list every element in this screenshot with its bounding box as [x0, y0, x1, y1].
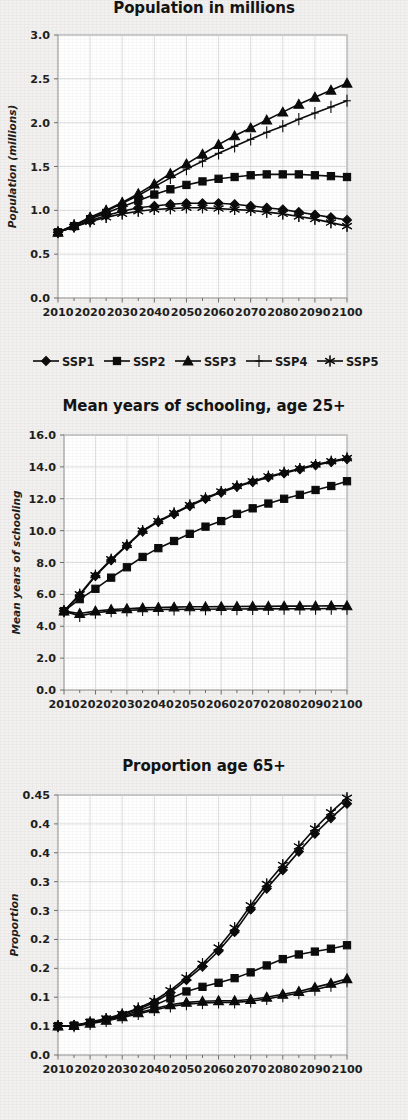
series-marker-square	[170, 537, 177, 544]
y-axis-title: Proportion	[8, 893, 20, 956]
x-axis-tick-label: 2040	[139, 306, 170, 319]
y-axis-tick-label: 1.5	[30, 160, 50, 173]
y-axis-tick-label: 4.0	[36, 620, 56, 633]
series-marker-square	[279, 955, 286, 962]
legend-label-SSP3: SSP3	[204, 354, 236, 368]
x-axis-tick-label: 2090	[300, 698, 331, 711]
chart-panel-population: Population in millions 0.00.51.01.52.02.…	[0, 0, 408, 398]
series-marker-square	[123, 563, 130, 570]
x-axis-tick-label: 2020	[75, 1063, 106, 1076]
y-axis-tick-label: 0.4	[30, 817, 50, 830]
series-marker-square	[108, 574, 115, 581]
x-axis-tick-label: 2050	[171, 306, 202, 319]
chart-panel-proportion: Proportion age 65+ 0.00.10.10.20.20.30.3…	[0, 758, 408, 1120]
x-axis-tick-label: 2070	[235, 306, 266, 319]
series-marker-square	[215, 979, 222, 986]
series-marker-square	[265, 499, 272, 506]
y-axis-tick-label: 14.0	[28, 460, 56, 473]
series-marker-square	[183, 987, 190, 994]
series-marker-square	[281, 495, 288, 502]
series-marker-square	[263, 170, 270, 177]
y-axis-title: Population (millions)	[6, 104, 18, 227]
y-axis-tick-label: 0.3	[30, 904, 50, 917]
series-marker-square	[233, 510, 240, 517]
y-axis-tick-label: 0.0	[30, 292, 50, 305]
y-axis-tick-label: 0.45	[22, 789, 50, 802]
series-marker-square	[167, 185, 174, 192]
x-axis-tick-label: 2080	[269, 698, 300, 711]
x-axis-tick-label: 2030	[111, 698, 142, 711]
y-axis-tick-label: 0.3	[30, 875, 50, 888]
series-marker-square	[311, 947, 318, 954]
y-axis-tick-label: 6.0	[36, 588, 56, 601]
x-axis-tick-label: 2030	[107, 1063, 138, 1076]
y-axis-tick-label: 8.0	[36, 556, 56, 569]
plot-area-schooling: 0.02.04.06.08.010.012.014.016.0201020202…	[0, 415, 408, 749]
series-marker-square	[247, 171, 254, 178]
series-marker-square	[199, 983, 206, 990]
plot-area-population: 0.00.51.01.52.02.53.02010202020302040205…	[0, 17, 408, 347]
series-marker-diamond	[42, 356, 51, 365]
y-axis-tick-label: 2.0	[30, 116, 50, 129]
chart-title-proportion: Proportion age 65+	[0, 758, 408, 775]
x-axis-tick-label: 2050	[174, 698, 205, 711]
y-axis-tick-label: 12.0	[28, 492, 56, 505]
series-marker-square	[186, 530, 193, 537]
series-marker-square	[139, 553, 146, 560]
y-axis-tick-label: 2.5	[30, 72, 50, 85]
legend-label-SSP2: SSP2	[133, 354, 165, 368]
y-axis-tick-label: 3.0	[30, 29, 50, 42]
legend-marker-SSP4	[255, 354, 263, 366]
y-axis-tick-label: 0.0	[30, 1049, 50, 1062]
series-marker-square	[311, 171, 318, 178]
x-axis-tick-label: 2010	[42, 1063, 73, 1076]
series-marker-square	[231, 173, 238, 180]
x-axis-tick-label: 2070	[235, 1063, 266, 1076]
y-axis-title: Mean years of schooling	[10, 490, 22, 634]
series-marker-square	[279, 170, 286, 177]
x-axis-tick-label: 2100	[331, 1063, 362, 1076]
legend-marker-SSP1	[42, 356, 51, 365]
schooling-chart-svg: 0.02.04.06.08.010.012.014.016.0201020202…	[0, 415, 408, 749]
y-axis-tick-label: 0.2	[30, 962, 50, 975]
series-marker-square	[113, 357, 120, 364]
legend-ssp-scenarios: SSP1SSP2SSP3SSP4SSP5	[0, 347, 408, 377]
x-axis-tick-label: 2010	[48, 698, 79, 711]
x-axis-tick-label: 2060	[206, 698, 237, 711]
series-marker-square	[247, 968, 254, 975]
y-axis-tick-label: 0.0	[36, 684, 56, 697]
x-axis-tick-label: 2040	[139, 1063, 170, 1076]
x-axis-tick-label: 2080	[267, 1063, 298, 1076]
x-axis-tick-label: 2040	[143, 698, 174, 711]
chart-panel-schooling: Mean years of schooling, age 25+ 0.02.04…	[0, 398, 408, 758]
legend-label-SSP4: SSP4	[275, 354, 307, 368]
legend-label-SSP5: SSP5	[346, 354, 378, 368]
proportion-chart-svg: 0.00.10.10.20.20.30.30.40.40.45201020202…	[0, 775, 408, 1111]
y-axis-tick-label: 1.0	[30, 204, 50, 217]
x-axis-tick-label: 2050	[171, 1063, 202, 1076]
series-marker-square	[295, 170, 302, 177]
y-axis-tick-label: 0.1	[30, 991, 50, 1004]
series-marker-square	[327, 945, 334, 952]
series-marker-square	[328, 482, 335, 489]
series-marker-square	[231, 974, 238, 981]
x-axis-tick-label: 2080	[267, 306, 298, 319]
y-axis-tick-label: 10.0	[28, 524, 56, 537]
x-axis-tick-label: 2060	[203, 1063, 234, 1076]
legend-label-SSP1: SSP1	[62, 354, 94, 368]
y-axis-tick-label: 16.0	[28, 429, 56, 442]
chart-title-schooling: Mean years of schooling, age 25+	[0, 398, 408, 415]
legend-svg: SSP1SSP2SSP3SSP4SSP5	[24, 347, 384, 375]
series-marker-square	[343, 477, 350, 484]
x-axis-tick-label: 2070	[237, 698, 268, 711]
x-axis-tick-label: 2020	[75, 306, 106, 319]
series-marker-square	[343, 173, 350, 180]
x-axis-tick-label: 2030	[107, 306, 138, 319]
x-axis-tick-label: 2090	[299, 306, 330, 319]
series-marker-square	[215, 175, 222, 182]
plot-area-proportion: 0.00.10.10.20.20.30.30.40.40.45201020202…	[0, 775, 408, 1111]
y-axis-tick-label: 0.5	[30, 248, 50, 261]
series-marker-square	[312, 486, 319, 493]
series-marker-square	[249, 504, 256, 511]
series-marker-square	[199, 177, 206, 184]
